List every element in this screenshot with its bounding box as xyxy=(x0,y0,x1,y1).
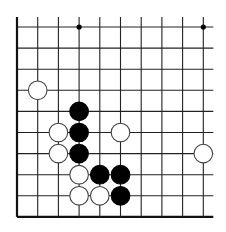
black-stone xyxy=(70,102,89,121)
white-stone xyxy=(91,187,110,206)
white-stone xyxy=(111,123,130,142)
white-stone xyxy=(194,144,213,163)
black-stone xyxy=(70,123,89,142)
black-stone xyxy=(111,187,130,206)
white-stone xyxy=(49,144,68,163)
white-stone xyxy=(49,123,68,142)
star-point xyxy=(77,24,82,29)
black-stone xyxy=(91,165,110,184)
star-point xyxy=(201,24,206,29)
white-stone xyxy=(70,187,89,206)
go-board xyxy=(0,0,226,232)
black-stone xyxy=(70,144,89,163)
white-stone xyxy=(70,165,89,184)
grid-lines xyxy=(17,17,213,217)
black-stone xyxy=(111,165,130,184)
white-stone xyxy=(28,81,47,100)
